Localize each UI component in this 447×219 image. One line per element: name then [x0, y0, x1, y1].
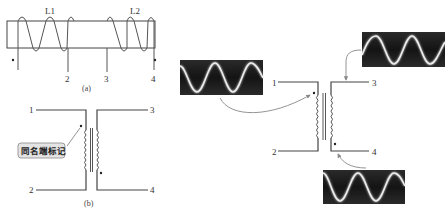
terminal-label-b4: 4 — [150, 185, 155, 195]
transformer-diagram: L1 L2 2 3 4 (a) 同名端标记 1 3 2 4 (b) — [0, 0, 447, 219]
primary-winding — [85, 130, 87, 170]
caption-b: (b) — [84, 199, 94, 208]
polarity-dot-secondary — [100, 172, 102, 174]
polarity-dot-primary — [80, 125, 82, 127]
figure-a: L1 L2 2 3 4 (a) — [7, 6, 156, 93]
terminal-label-4: 4 — [151, 74, 156, 84]
output-arrow-bottom — [338, 154, 366, 168]
caption-a: (a) — [82, 84, 91, 93]
terminal-label-c4: 4 — [372, 147, 377, 157]
terminal-label-3: 3 — [104, 74, 109, 84]
terminal-label-2: 2 — [65, 74, 70, 84]
terminal-label-b3: 3 — [150, 105, 155, 115]
output-waveform-top — [362, 32, 445, 67]
secondary-winding — [97, 130, 99, 170]
terminal-label-c1: 1 — [272, 78, 277, 88]
coil-l1 — [18, 17, 74, 72]
terminal-label-c3: 3 — [372, 78, 377, 88]
annotation-text: 同名端标记 — [21, 146, 66, 156]
coil-label-l2: L2 — [130, 6, 140, 16]
polarity-dot-secondary-c — [334, 143, 336, 145]
secondary-winding-c — [331, 95, 333, 138]
input-arrow — [220, 95, 310, 113]
polarity-dot-primary-c — [313, 92, 315, 94]
polarity-dot-l1 — [12, 59, 14, 61]
figure-b: 同名端标记 1 3 2 4 (b) — [18, 105, 155, 208]
annotation-leader — [67, 128, 80, 146]
output-arrow-top — [346, 50, 361, 80]
terminal-label-c2: 2 — [272, 147, 277, 157]
coil-label-l1: L1 — [45, 6, 55, 16]
terminal-label-b2: 2 — [29, 185, 34, 195]
polarity-dot-l2 — [154, 59, 156, 61]
primary-winding-c — [317, 95, 319, 138]
coil-l2 — [107, 17, 154, 72]
figure-c: 1 3 2 4 — [180, 32, 445, 204]
terminal-label-b1: 1 — [29, 105, 34, 115]
output-waveform-bottom — [323, 170, 405, 204]
input-waveform — [180, 60, 263, 95]
